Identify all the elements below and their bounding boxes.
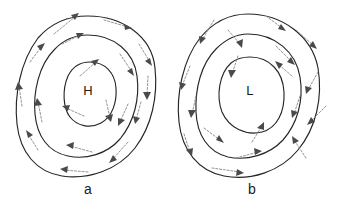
wind-arrow xyxy=(143,76,151,100)
wind-arrow xyxy=(109,142,128,163)
wind-arrow xyxy=(139,44,152,66)
figure-root: H a xyxy=(0,0,344,204)
wind-arrow xyxy=(228,56,238,78)
wind-arrow xyxy=(296,30,317,49)
wind-arrow xyxy=(291,96,300,118)
wind-arrow xyxy=(275,61,292,76)
wind-arrow xyxy=(305,72,318,94)
panel-a-caption: a xyxy=(84,181,92,197)
wind-arrow xyxy=(236,148,262,158)
low-pressure-center-label: L xyxy=(246,83,253,98)
wind-arrow xyxy=(26,130,38,150)
wind-arrow xyxy=(199,20,214,44)
wind-arrow xyxy=(118,104,128,126)
panel-a: H a xyxy=(15,13,156,197)
wind-arrow xyxy=(60,166,88,173)
wind-arrow xyxy=(62,105,84,116)
panel-b: L b xyxy=(178,14,326,197)
wind-arrow xyxy=(66,142,92,152)
pressure-system-diagram: H a xyxy=(0,0,344,204)
wind-arrow xyxy=(120,54,134,76)
wind-arrow xyxy=(307,106,326,125)
wind-arrow xyxy=(204,128,224,143)
wind-arrow xyxy=(54,13,79,34)
high-pressure-center-label: H xyxy=(83,83,93,98)
panel-b-caption: b xyxy=(248,181,256,197)
wind-arrow xyxy=(188,96,196,118)
wind-arrow xyxy=(266,16,286,31)
wind-arrow xyxy=(212,168,244,176)
wind-arrow xyxy=(62,33,84,44)
